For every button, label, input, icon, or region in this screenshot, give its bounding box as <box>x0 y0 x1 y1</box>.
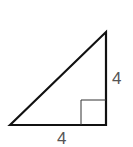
right-triangle <box>10 32 106 125</box>
right-angle-marker <box>81 100 106 125</box>
vertical-side-label: 4 <box>112 69 121 88</box>
horizontal-side-label: 4 <box>57 129 66 147</box>
triangle-diagram: 4 4 <box>0 0 133 147</box>
